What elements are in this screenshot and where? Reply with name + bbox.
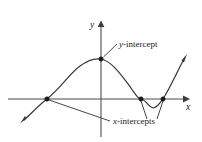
- point-x-intercept-right: [161, 97, 165, 101]
- diagram-canvas: x y y-intercept x-i: [0, 0, 202, 142]
- y-intercept-label-suffix: -intercept: [123, 39, 158, 49]
- y-intercept-leader: [104, 44, 118, 57]
- polynomial-curve: [20, 54, 187, 124]
- y-axis-label: y: [89, 20, 95, 30]
- y-axis-arrowhead: [98, 21, 105, 28]
- intercepts-diagram: x y y-intercept x-i: [0, 0, 202, 142]
- y-axis: y: [89, 20, 104, 137]
- point-y-intercept: [99, 57, 103, 61]
- callout-leaders: [49, 44, 163, 121]
- curve-left-arrowhead: [20, 116, 27, 124]
- x-intercepts-label-suffix: -intercepts: [117, 116, 155, 126]
- point-x-intercept-left: [45, 97, 49, 101]
- point-x-intercept-middle: [139, 97, 143, 101]
- y-intercept-label: y-intercept: [118, 39, 158, 49]
- x-intercepts-label: x-intercepts: [112, 116, 155, 126]
- intercept-points: [45, 57, 165, 101]
- x-axis-label: x: [185, 102, 191, 112]
